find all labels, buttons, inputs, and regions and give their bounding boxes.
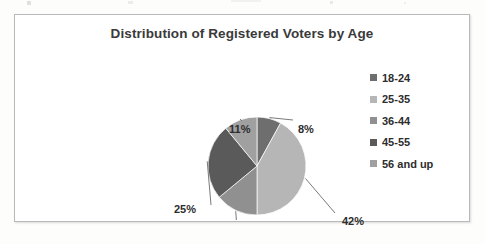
legend-item-label: 25-35 xyxy=(382,93,410,105)
legend-item[interactable]: 25-35 xyxy=(370,89,466,111)
legend-item[interactable]: 56 and up xyxy=(370,153,466,175)
chart-title: Distribution of Registered Voters by Age xyxy=(15,26,469,41)
pie-data-label-45-55: 25% xyxy=(174,203,196,215)
pie-plot-area: 8% 42% 14% 25% 11% xyxy=(35,55,365,220)
scan-artifact-speck xyxy=(128,1,133,4)
legend-color-swatch xyxy=(370,139,377,146)
legend-item[interactable]: 36-44 xyxy=(370,110,466,132)
pie-leader-line xyxy=(305,178,335,213)
legend-item-label: 45-55 xyxy=(382,136,410,148)
scan-artifact-speck xyxy=(330,1,333,4)
legend-color-swatch xyxy=(370,74,377,81)
legend-item[interactable]: 45-55 xyxy=(370,132,466,154)
scanned-page-background: Distribution of Registered Voters by Age… xyxy=(0,0,485,244)
pie-data-label-25-35: 42% xyxy=(342,215,364,227)
pie-chart-svg xyxy=(35,55,365,220)
chart-container: Distribution of Registered Voters by Age… xyxy=(14,14,470,222)
legend-item[interactable]: 18-24 xyxy=(370,67,466,89)
chart-legend: 18-2425-3536-4445-5556 and up xyxy=(370,67,466,175)
scan-artifact-speck xyxy=(27,1,31,5)
scan-artifact-speck xyxy=(231,0,261,2)
pie-data-label-56-and-up: 11% xyxy=(229,123,250,135)
legend-color-swatch xyxy=(370,96,377,103)
pie-data-label-18-24: 8% xyxy=(298,123,314,135)
legend-item-label: 18-24 xyxy=(382,72,410,84)
legend-color-swatch xyxy=(370,160,377,167)
pie-slice-group xyxy=(208,117,306,215)
scan-artifact-speck xyxy=(404,2,406,4)
pie-leader-line xyxy=(236,211,239,220)
legend-item-label: 56 and up xyxy=(382,158,433,170)
legend-item-label: 36-44 xyxy=(382,115,410,127)
legend-color-swatch xyxy=(370,117,377,124)
